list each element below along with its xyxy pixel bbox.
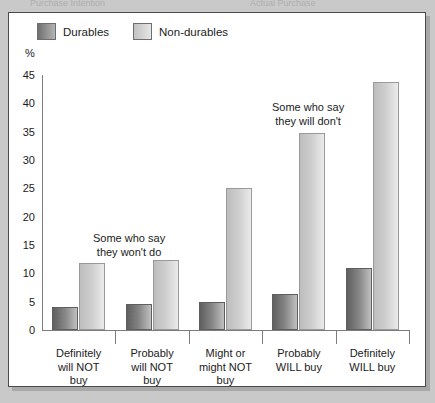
x-axis-label: Probablywill NOTbuy <box>115 347 188 388</box>
cut-off-header-text: Purchase Intention Actual Purchase <box>0 0 435 9</box>
bar-durables <box>346 268 372 330</box>
cut-off-header-left: Purchase Intention <box>30 0 105 8</box>
legend-label-non-durables: Non-durables <box>159 26 228 38</box>
legend-swatch-non-durables-icon <box>133 23 152 40</box>
annotation-some-who-say-they-will-dont: Some who saythey will don't <box>272 101 344 128</box>
y-axis-tick-25: 25 <box>23 182 35 194</box>
legend-item-non-durables: Non-durables <box>133 23 228 40</box>
bar-non-durables <box>299 133 325 330</box>
x-axis-divider <box>115 330 116 344</box>
y-axis-tick-30: 30 <box>23 154 35 166</box>
y-axis-tick-15: 15 <box>23 239 35 251</box>
x-axis-label: DefinitelyWILL buy <box>336 347 409 374</box>
bar-durables <box>52 307 78 330</box>
y-axis-unit-label: % <box>25 47 35 59</box>
x-axis-label: ProbablyWILL buy <box>262 347 335 374</box>
bar-non-durables <box>153 260 179 330</box>
plot-area: 051015202530354045 Definitelywill NOTbuy… <box>42 75 409 330</box>
bar-group <box>52 75 105 330</box>
bar-non-durables <box>373 82 399 330</box>
y-axis-tick-45: 45 <box>23 69 35 81</box>
bar-non-durables <box>226 188 252 330</box>
x-axis-label: Definitelywill NOTbuy <box>42 347 115 388</box>
bar-non-durables <box>79 263 105 330</box>
bar-group <box>199 75 252 330</box>
y-axis-tick-40: 40 <box>23 97 35 109</box>
x-axis-line <box>42 330 409 331</box>
x-axis-divider <box>189 330 190 344</box>
cut-off-header-right: Actual Purchase <box>250 0 316 8</box>
chart-figure: Durables Non-durables % 0510152025303540… <box>8 12 426 387</box>
bar-durables <box>199 302 225 330</box>
legend-item-durables: Durables <box>37 23 109 40</box>
y-axis-tick-5: 5 <box>29 296 35 308</box>
x-axis-divider <box>336 330 337 344</box>
legend-label-durables: Durables <box>63 26 109 38</box>
y-axis-tick-10: 10 <box>23 267 35 279</box>
x-axis-divider <box>262 330 263 344</box>
bar-group <box>346 75 399 330</box>
annotation-some-who-say-they-wont-do: Some who saythey won't do <box>93 232 165 259</box>
legend-swatch-durables-icon <box>37 23 56 40</box>
y-axis-tick-0: 0 <box>29 324 35 336</box>
y-axis-tick-20: 20 <box>23 211 35 223</box>
y-axis-line <box>42 75 43 330</box>
bar-durables <box>126 304 152 330</box>
chart-legend: Durables Non-durables <box>37 23 242 40</box>
x-axis-divider <box>409 330 410 344</box>
x-axis-label: Might ormight NOTbuy <box>189 347 262 388</box>
y-axis-tick-35: 35 <box>23 126 35 138</box>
bar-group <box>126 75 179 330</box>
bar-durables <box>272 294 298 330</box>
